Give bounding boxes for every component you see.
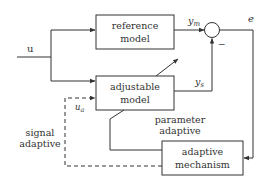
parameter-adaptive-label-2: adaptive bbox=[159, 125, 201, 136]
input-signal-lines bbox=[17, 30, 95, 81]
ys-label: ys bbox=[194, 76, 204, 89]
adaptive-mechanism-block: adaptive mechanism bbox=[162, 141, 243, 175]
parameter-adjust-arrow bbox=[156, 59, 178, 76]
adjustable-model-label-2: model bbox=[120, 94, 149, 105]
adaptive-mechanism-label-1: adaptive bbox=[182, 146, 224, 157]
adjustable-model-block: adjustable model bbox=[96, 76, 174, 110]
reference-model-block: reference model bbox=[96, 15, 174, 49]
signal-adaptive-label-2: adaptive bbox=[19, 138, 61, 149]
error-signal-line bbox=[220, 30, 254, 158]
adjustable-model-label-1: adjustable bbox=[110, 81, 160, 92]
adaptive-mechanism-label-2: mechanism bbox=[175, 159, 230, 170]
ys-signal-line bbox=[174, 39, 212, 92]
input-label: u bbox=[27, 43, 34, 54]
mras-diagram: u reference model adjustable model ym − … bbox=[0, 0, 267, 183]
error-label: e bbox=[248, 13, 254, 24]
minus-sign: − bbox=[218, 39, 226, 49]
reference-model-label-2: model bbox=[120, 33, 149, 44]
signal-adaptive-label-1: signal bbox=[26, 127, 55, 138]
summing-junction bbox=[205, 23, 220, 38]
reference-model-label-1: reference bbox=[112, 20, 159, 31]
parameter-adaptive-label-1: parameter bbox=[155, 114, 206, 125]
ym-label: ym bbox=[187, 15, 200, 28]
ua-label: ua bbox=[75, 102, 84, 114]
